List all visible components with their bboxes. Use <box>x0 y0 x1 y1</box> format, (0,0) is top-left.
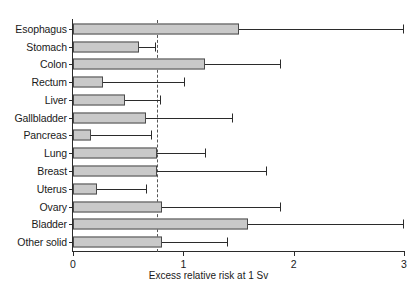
bar-lung <box>73 148 157 159</box>
chart-row: Bladder <box>73 215 404 233</box>
chart-row: Other solid <box>73 233 404 251</box>
x-axis-tick-label: 1 <box>180 258 186 270</box>
error-bar-line <box>205 64 280 65</box>
error-bar-cap <box>160 95 161 104</box>
y-axis-label-colon: Colon <box>40 58 67 70</box>
y-axis-label-other-solid: Other solid <box>17 236 67 248</box>
x-axis-tick <box>73 251 74 256</box>
bar-breast <box>73 166 157 177</box>
error-bar-cap <box>280 202 281 211</box>
chart-row: Stomach <box>73 38 404 56</box>
error-bar-line <box>162 207 280 208</box>
y-axis-label-lung: Lung <box>44 147 67 159</box>
bar-bladder <box>73 219 248 230</box>
bar-liver <box>73 94 125 105</box>
error-bar-cap <box>205 149 206 158</box>
x-axis-tick <box>404 251 405 256</box>
error-bar-line <box>91 135 152 136</box>
y-axis-label-pancreas: Pancreas <box>23 129 67 141</box>
error-bar-line <box>157 171 266 172</box>
error-bar-line <box>103 82 185 83</box>
chart-row: Lung <box>73 144 404 162</box>
y-axis-label-esophagus: Esophagus <box>15 23 67 35</box>
error-bar-cap <box>184 78 185 87</box>
x-axis-tick <box>294 251 295 256</box>
chart-row: Ovary <box>73 198 404 216</box>
bar-colon <box>73 59 205 70</box>
y-axis-label-ovary: Ovary <box>39 201 67 213</box>
error-bar-cap <box>155 42 156 51</box>
bar-rectum <box>73 77 103 88</box>
x-axis-title: Excess relative risk at 1 Sv <box>0 270 417 281</box>
error-bar-cap <box>232 113 233 122</box>
chart-row: Gallbladder <box>73 109 404 127</box>
y-axis-label-bladder: Bladder <box>32 218 68 230</box>
excess-relative-risk-bar-chart: EsophagusStomachColonRectumLiverGallblad… <box>0 0 417 294</box>
error-bar-line <box>162 242 227 243</box>
error-bar-line <box>248 224 404 225</box>
chart-row: Esophagus <box>73 20 404 38</box>
x-axis-tick-label: 3 <box>401 258 407 270</box>
bar-other-solid <box>73 237 162 248</box>
error-bar-cap <box>151 131 152 140</box>
error-bar-line <box>157 153 206 154</box>
bar-esophagus <box>73 23 239 34</box>
error-bar-cap <box>266 167 267 176</box>
plot-area: EsophagusStomachColonRectumLiverGallblad… <box>73 20 404 251</box>
chart-row: Pancreas <box>73 127 404 145</box>
chart-row: Breast <box>73 162 404 180</box>
error-bar-cap <box>280 60 281 69</box>
y-axis-label-uterus: Uterus <box>37 183 67 195</box>
x-axis-tick-label: 0 <box>70 258 76 270</box>
error-bar-line <box>139 47 154 48</box>
x-axis-line <box>72 251 405 252</box>
chart-row: Rectum <box>73 73 404 91</box>
x-axis-tick-label: 2 <box>291 258 297 270</box>
y-axis-label-gallbladder: Gallbladder <box>14 112 67 124</box>
y-axis-label-breast: Breast <box>37 165 67 177</box>
bar-uterus <box>73 183 97 194</box>
bar-ovary <box>73 201 162 212</box>
bar-stomach <box>73 41 139 52</box>
y-axis-label-liver: Liver <box>45 94 67 106</box>
bar-gallbladder <box>73 112 146 123</box>
bar-pancreas <box>73 130 91 141</box>
error-bar-line <box>97 189 146 190</box>
error-bar-line <box>125 100 160 101</box>
error-bar-cap <box>146 184 147 193</box>
error-bar-line <box>146 118 232 119</box>
chart-row: Uterus <box>73 180 404 198</box>
y-axis-label-stomach: Stomach <box>26 41 67 53</box>
error-bar-line <box>239 29 405 30</box>
chart-row: Colon <box>73 56 404 74</box>
chart-row: Liver <box>73 91 404 109</box>
error-bar-cap <box>403 220 404 229</box>
error-bar-cap <box>403 24 404 33</box>
error-bar-cap <box>227 238 228 247</box>
x-axis-tick <box>183 251 184 256</box>
y-axis-label-rectum: Rectum <box>31 76 67 88</box>
